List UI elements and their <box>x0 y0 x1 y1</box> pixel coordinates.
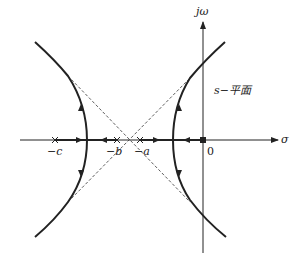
pole-label-c: −c <box>47 146 62 157</box>
pole-label-a: −a <box>134 146 150 157</box>
pole-label-b: −b <box>106 146 122 157</box>
root-locus-diagram <box>0 0 302 268</box>
pole-origin-icon <box>201 138 206 143</box>
imag-axis-label: jω <box>196 6 208 17</box>
real-axis-label: σ <box>281 134 289 145</box>
origin-label: 0 <box>207 146 214 157</box>
plane-label: s−平面 <box>214 85 251 96</box>
